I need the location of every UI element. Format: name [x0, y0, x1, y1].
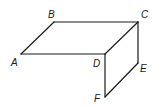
edge-dc	[105, 22, 138, 54]
edge-fe	[105, 63, 138, 97]
label-d: D	[93, 58, 100, 69]
label-f: F	[94, 93, 101, 104]
label-c: C	[141, 9, 149, 20]
label-b: B	[48, 9, 55, 20]
label-e: E	[140, 63, 147, 74]
edge-ab	[21, 22, 54, 54]
geometry-diagram: A B C D E F	[0, 0, 160, 106]
label-a: A	[10, 57, 18, 68]
